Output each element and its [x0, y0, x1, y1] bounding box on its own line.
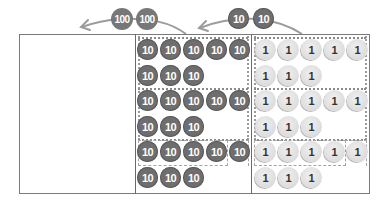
hundreds-exchange-arrow [82, 19, 186, 34]
ten-counter: 10 [160, 116, 181, 137]
one-counter: 1 [324, 90, 345, 111]
ten-counter: 10 [183, 116, 204, 137]
one-counter: 1 [324, 141, 345, 162]
ten-counter: 10 [137, 65, 158, 86]
one-counter: 1 [255, 116, 276, 137]
ten-counter: 10 [183, 39, 204, 60]
one-counter: 1 [301, 90, 322, 111]
one-counter: 1 [255, 65, 276, 86]
ten-counter: 10 [206, 141, 227, 162]
one-counter: 1 [278, 90, 299, 111]
ten-counter: 10 [183, 65, 204, 86]
one-counter: 1 [278, 116, 299, 137]
one-counter: 1 [255, 141, 276, 162]
one-counter: 1 [255, 167, 276, 188]
one-counter: 1 [278, 39, 299, 60]
one-counter: 1 [301, 167, 322, 188]
ten-counter: 10 [229, 39, 250, 60]
one-counter: 1 [301, 39, 322, 60]
ten-counter: 10 [137, 141, 158, 162]
ten-counter: 10 [206, 39, 227, 60]
ten-counter: 10 [183, 167, 204, 188]
ten-counter: 10 [160, 167, 181, 188]
tens-exchange-arrow [200, 19, 302, 34]
tens-ones-divider [251, 34, 252, 194]
hundred-counter: 100 [111, 8, 133, 30]
ten-counter: 10 [229, 141, 250, 162]
ten-counter: 10 [160, 65, 181, 86]
one-counter: 1 [347, 90, 368, 111]
ten-counter: 10 [160, 39, 181, 60]
one-counter: 1 [255, 39, 276, 60]
ten-counter: 10 [160, 141, 181, 162]
one-counter: 1 [278, 141, 299, 162]
hundred-counter: 100 [136, 8, 158, 30]
ten-counter: 10 [228, 8, 249, 29]
one-counter: 1 [301, 65, 322, 86]
ten-counter: 10 [137, 39, 158, 60]
one-counter: 1 [347, 39, 368, 60]
ten-counter: 10 [253, 8, 274, 29]
one-counter: 1 [301, 141, 322, 162]
ten-counter: 10 [229, 90, 250, 111]
hundreds-tens-divider [135, 34, 136, 194]
ten-counter: 10 [183, 141, 204, 162]
one-counter: 1 [255, 90, 276, 111]
one-counter: 1 [347, 141, 368, 162]
one-counter: 1 [324, 39, 345, 60]
one-counter: 1 [278, 167, 299, 188]
ten-counter: 10 [183, 90, 204, 111]
ten-counter: 10 [137, 116, 158, 137]
ten-counter: 10 [137, 167, 158, 188]
one-counter: 1 [278, 65, 299, 86]
ten-counter: 10 [137, 90, 158, 111]
one-counter: 1 [301, 116, 322, 137]
ten-counter: 10 [160, 90, 181, 111]
ten-counter: 10 [206, 90, 227, 111]
